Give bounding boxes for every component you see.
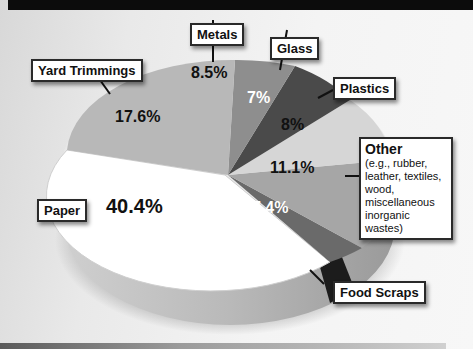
label-yard-trimmings: Yard Trimmings	[31, 59, 143, 82]
label-plastics: Plastics	[333, 77, 396, 100]
label-other: Other (e.g., rubber, leather, textiles, …	[359, 137, 453, 240]
value-plastics: 8%	[281, 116, 304, 134]
value-paper: 40.4%	[106, 195, 163, 218]
label-food-scraps: Food Scraps	[333, 281, 426, 304]
value-food-scraps: 7.4%	[252, 199, 288, 217]
value-glass: 7%	[247, 89, 270, 107]
label-other-title: Other	[365, 141, 402, 157]
value-yard-trimmings: 17.6%	[115, 108, 160, 126]
label-paper: Paper	[37, 199, 87, 222]
value-other: 11.1%	[270, 159, 314, 177]
label-other-description: (e.g., rubber, leather, textiles, wood, …	[365, 157, 447, 235]
label-glass: Glass	[270, 37, 319, 60]
value-metals: 8.5%	[191, 64, 227, 82]
label-metals: Metals	[190, 23, 244, 46]
bottom-bar	[0, 343, 446, 349]
